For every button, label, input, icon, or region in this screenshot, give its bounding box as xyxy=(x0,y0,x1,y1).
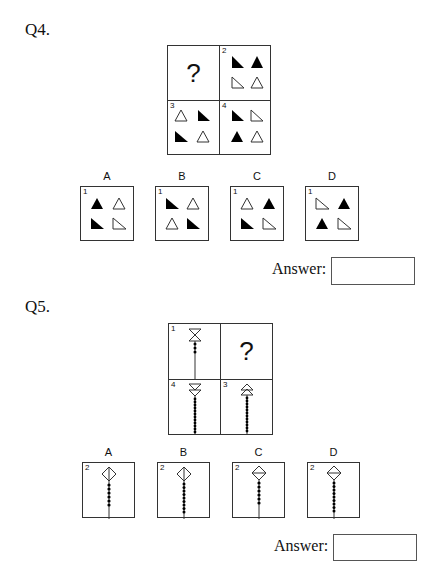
q4-answer-label: Answer: xyxy=(272,260,326,278)
q5-answer-input[interactable] xyxy=(333,534,417,561)
q5-option-b[interactable]: B 2 xyxy=(157,462,210,518)
diamond-chain-icon xyxy=(158,463,211,519)
option-label: A xyxy=(80,170,134,182)
question-mark: ? xyxy=(168,58,219,89)
triangles-icon xyxy=(156,187,210,242)
option-label: B xyxy=(157,446,210,458)
q4-option-b[interactable]: B 1 xyxy=(155,186,209,241)
q5-label: Q5. xyxy=(25,297,50,317)
q5-cell-1: 1 xyxy=(169,324,220,379)
triangle-chain-icon xyxy=(221,380,272,435)
q4-cell-3: 3 xyxy=(168,101,219,155)
option-label: C xyxy=(232,446,285,458)
q4-answer-input[interactable] xyxy=(331,257,415,285)
hourglass-chain-icon xyxy=(169,324,220,379)
q5-option-c[interactable]: C 2 xyxy=(232,462,285,518)
triangles-icon xyxy=(220,101,271,155)
q4-label: Q4. xyxy=(25,20,50,40)
diamond-chain-icon xyxy=(83,463,136,519)
q5-option-a[interactable]: A 2 xyxy=(82,462,135,518)
q4-option-c[interactable]: C 1 xyxy=(230,186,284,241)
q5-option-d[interactable]: D 2 xyxy=(307,462,360,518)
q4-option-d[interactable]: D 1 xyxy=(305,186,359,241)
triangles-icon xyxy=(306,187,360,242)
q4-cell-missing: ? xyxy=(168,46,219,100)
triangle-chain-icon xyxy=(169,380,220,435)
triangles-icon xyxy=(220,46,271,100)
q4-puzzle-grid: ? 2 3 4 xyxy=(167,45,271,155)
triangles-icon xyxy=(231,187,285,242)
q5-cell-3: 3 xyxy=(221,380,272,435)
option-label: D xyxy=(307,446,360,458)
q4-option-a[interactable]: A 1 xyxy=(80,186,134,241)
option-label: B xyxy=(155,170,209,182)
q5-answer-label: Answer: xyxy=(274,537,328,555)
option-label: C xyxy=(230,170,284,182)
q5-puzzle-grid: 1 ? 4 3 xyxy=(168,323,273,435)
option-label: A xyxy=(82,446,135,458)
diamond-chain-icon xyxy=(308,463,361,519)
q5-cell-4: 4 xyxy=(169,380,220,435)
q5-cell-missing: ? xyxy=(221,324,272,379)
q4-cell-2: 2 xyxy=(220,46,271,100)
question-mark: ? xyxy=(221,336,272,367)
diamond-chain-icon xyxy=(233,463,286,519)
option-label: D xyxy=(305,170,359,182)
triangles-icon xyxy=(168,101,219,155)
triangles-icon xyxy=(81,187,135,242)
q4-cell-4: 4 xyxy=(220,101,271,155)
